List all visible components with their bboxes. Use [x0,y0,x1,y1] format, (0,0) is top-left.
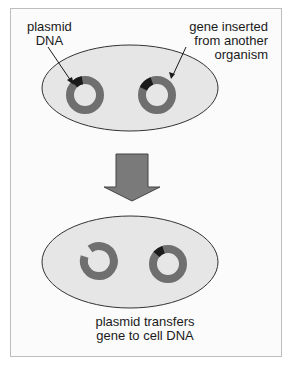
label-line: organism [189,48,268,62]
transferred-gene-segment [157,250,164,255]
label-line: plasmid transfers [0,315,290,329]
label-line: DNA [27,34,72,48]
gene-inserted-label: gene inserted from another organism [189,20,268,62]
plasmid-dna-label: plasmid DNA [27,20,72,48]
bacterial-cell-after [42,216,218,308]
down-arrow-icon [104,154,160,201]
label-line: plasmid [27,20,72,34]
label-line: gene inserted [189,20,268,34]
caption-label: plasmid transfers gene to cell DNA [0,315,290,343]
inserted-gene-segment [74,80,82,84]
label-line: gene to cell DNA [0,329,290,343]
label-line: from another [189,34,268,48]
